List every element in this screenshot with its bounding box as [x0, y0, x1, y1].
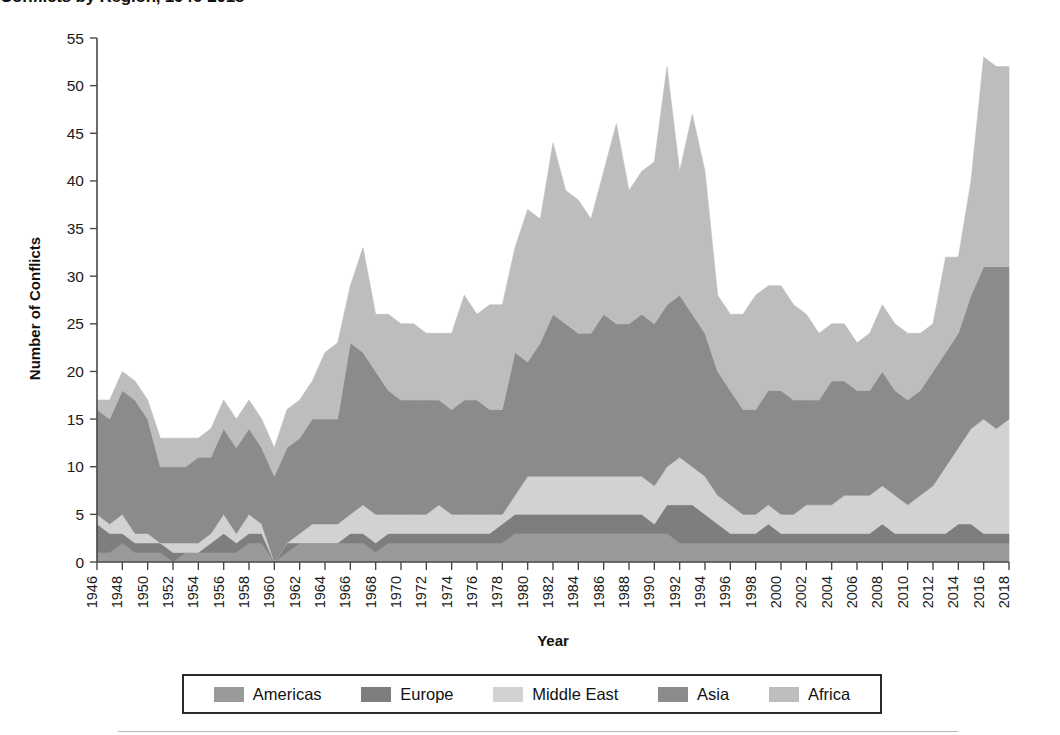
- x-tick-label: 1958: [236, 576, 252, 608]
- x-tick-label: 1972: [413, 576, 429, 608]
- y-tick-label: 55: [67, 30, 84, 47]
- legend-entry-africa[interactable]: Africa: [769, 685, 850, 704]
- x-tick-label: 1998: [743, 576, 759, 608]
- x-tick-label: 1964: [312, 576, 328, 608]
- x-tick-label: 1954: [185, 576, 201, 608]
- chart-figure: Conflicts by Region, 1946-2018 Number of…: [0, 0, 1060, 735]
- stacked-area-plot: 0510152025303540455055 19461948195019521…: [0, 0, 1060, 735]
- x-tick-label: 2014: [945, 576, 961, 608]
- y-tick-labels: 0510152025303540455055: [67, 30, 85, 571]
- legend-label: Europe: [400, 685, 453, 704]
- page-divider: [118, 731, 958, 732]
- x-tick-label: 2000: [768, 576, 784, 608]
- x-tick-labels: 1946194819501952195419561958196019621964…: [84, 576, 1012, 608]
- y-tick-label: 50: [67, 77, 85, 94]
- x-axis-title: Year: [97, 632, 1009, 649]
- x-tick-label: 1962: [287, 576, 303, 608]
- legend-label: Africa: [808, 685, 850, 704]
- x-tick-label: 2006: [844, 576, 860, 608]
- x-tick-label: 1992: [667, 576, 683, 608]
- x-tick-label: 1988: [616, 576, 632, 608]
- x-tick-label: 2016: [971, 576, 987, 608]
- x-tick-label: 1948: [109, 576, 125, 608]
- legend-swatch-icon: [769, 687, 799, 702]
- legend-swatch-icon: [214, 687, 244, 702]
- x-tick-label: 1956: [211, 576, 227, 608]
- x-tick-label: 1990: [641, 576, 657, 608]
- legend-label: Americas: [253, 685, 322, 704]
- chart-legend: AmericasEuropeMiddle EastAsiaAfrica: [182, 674, 882, 714]
- x-tick-label: 2018: [996, 576, 1012, 608]
- x-tick-label: 1984: [565, 576, 581, 608]
- y-tick-label: 30: [67, 268, 85, 285]
- legend-swatch-icon: [658, 687, 688, 702]
- x-tick-label: 1978: [489, 576, 505, 608]
- x-tick-label: 1970: [388, 576, 404, 608]
- x-tick-label: 1994: [692, 576, 708, 608]
- y-tick-label: 5: [75, 506, 84, 523]
- legend-label: Asia: [697, 685, 729, 704]
- legend-entry-americas[interactable]: Americas: [214, 685, 322, 704]
- x-tick-label: 1950: [135, 576, 151, 608]
- x-tick-label: 1996: [717, 576, 733, 608]
- y-tick-label: 40: [67, 172, 85, 189]
- y-tick-label: 45: [67, 125, 84, 142]
- legend-entry-europe[interactable]: Europe: [361, 685, 453, 704]
- x-tick-label: 2012: [920, 576, 936, 608]
- x-tick-label: 1980: [515, 576, 531, 608]
- x-tick-label: 1976: [464, 576, 480, 608]
- x-tick-label: 1974: [439, 576, 455, 608]
- y-tick-label: 20: [67, 363, 85, 380]
- x-tick-label: 1986: [591, 576, 607, 608]
- x-tick-label: 1968: [363, 576, 379, 608]
- legend-entry-asia[interactable]: Asia: [658, 685, 729, 704]
- x-tick-label: 1960: [261, 576, 277, 608]
- x-tick-label: 1952: [160, 576, 176, 608]
- x-tick-label: 2004: [819, 576, 835, 608]
- y-tick-label: 10: [67, 458, 85, 475]
- y-tick-label: 15: [67, 411, 84, 428]
- y-tick-label: 25: [67, 315, 84, 332]
- legend-label: Middle East: [532, 685, 618, 704]
- legend-swatch-icon: [361, 687, 391, 702]
- legend-entry-middle-east[interactable]: Middle East: [493, 685, 618, 704]
- x-tick-label: 1966: [337, 576, 353, 608]
- y-tick-label: 35: [67, 220, 84, 237]
- x-tick-label: 1982: [540, 576, 556, 608]
- x-tick-label: 2010: [895, 576, 911, 608]
- x-tick-label: 1946: [84, 576, 100, 608]
- y-tick-label: 0: [75, 554, 84, 571]
- legend-swatch-icon: [493, 687, 523, 702]
- x-tick-label: 2008: [869, 576, 885, 608]
- x-tick-label: 2002: [793, 576, 809, 608]
- area-series-group: [97, 57, 1009, 562]
